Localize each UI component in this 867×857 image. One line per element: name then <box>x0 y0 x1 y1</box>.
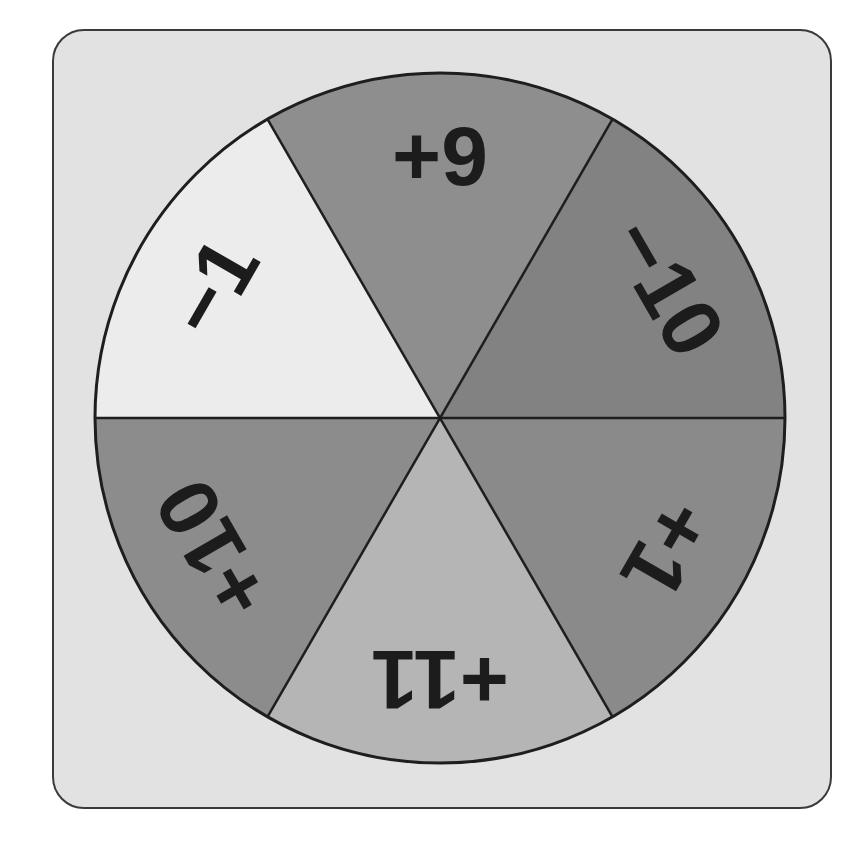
spinner-wheel: +9 −10 +1 +11 +10 −1 <box>0 0 867 857</box>
segment-label-plus-9: +9 <box>392 109 488 203</box>
segment-label-plus-11: +11 <box>371 633 509 727</box>
